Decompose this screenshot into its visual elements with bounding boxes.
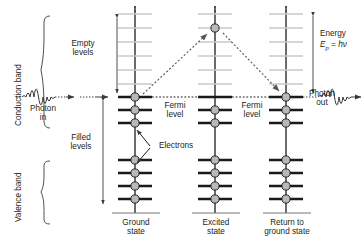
energy-label: Energy	[320, 29, 346, 38]
fermi-level-label-1: Fermi level	[155, 101, 195, 120]
diagram-canvas: Conduction band Valence band Empty level…	[0, 0, 363, 250]
filled-levels-label: Filled levels	[60, 133, 102, 152]
column-caption-return-to-ground-state: Return to ground state	[248, 218, 326, 237]
column-ground-state	[112, 6, 160, 213]
fermi-level-label-2: Fermi level	[233, 101, 271, 120]
photon-in-label: Photon in	[14, 104, 72, 123]
photon-out-label: Photon out	[296, 89, 348, 108]
energy-formula-label: Ep = hν	[320, 40, 347, 53]
valence-band-brace	[41, 161, 50, 224]
excitation-transition-arrow	[143, 34, 207, 94]
column-caption-excited-state: Excited state	[188, 218, 244, 237]
photon-in-wave-icon	[16, 89, 108, 105]
electrons-label: Electrons	[159, 141, 193, 150]
energy-formula-rest: = hν	[329, 40, 347, 49]
empty-levels-label: Empty levels	[57, 39, 109, 58]
column-caption-ground-state: Ground state	[108, 218, 164, 237]
valence-band-label: Valence band	[14, 173, 23, 222]
diagram-graphics	[0, 0, 363, 250]
